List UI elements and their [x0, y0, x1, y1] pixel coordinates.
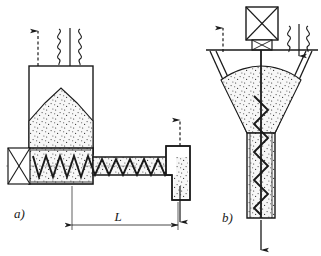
diagram-b: b) — [206, 7, 318, 250]
dimension-L — [72, 186, 178, 230]
figure-canvas: L a) — [0, 0, 321, 256]
drive-unit-a — [8, 148, 30, 184]
variant-a-label: a) — [14, 206, 25, 221]
drive-motor-b — [246, 7, 278, 40]
technical-diagram: L a) — [0, 0, 321, 256]
diagram-a: L a) — [6, 28, 190, 230]
variant-b-label: b) — [222, 210, 233, 225]
dimension-L-label: L — [113, 209, 121, 224]
bearing-block-b — [252, 40, 272, 50]
outlet-chute-a — [166, 146, 190, 200]
